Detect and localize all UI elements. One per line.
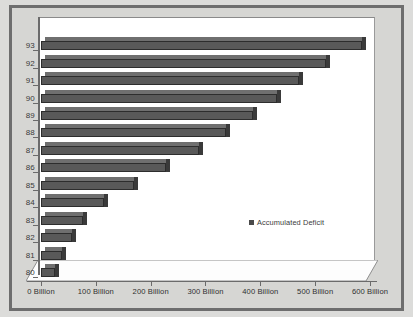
y-axis-tick	[33, 207, 38, 208]
y-axis-label-91: 91	[26, 76, 35, 85]
y-axis-label-89: 89	[26, 111, 35, 120]
chart-legend: Accumulated Deficit	[249, 218, 324, 227]
y-axis-label-83: 83	[26, 216, 35, 225]
x-axis-label-300: 300 Billion	[187, 287, 223, 296]
y-axis-tick	[33, 277, 38, 278]
x-axis-label-200: 200 Billion	[133, 287, 169, 296]
y-axis-tick	[33, 68, 38, 69]
y-axis-tick	[33, 242, 38, 243]
plot-floor-3d	[26, 260, 378, 282]
y-axis-tick	[33, 155, 38, 156]
x-axis-tick	[370, 281, 371, 286]
chart-screenshot: 8081828384858687888990919293 Accumulated…	[0, 0, 413, 317]
y-axis-tick	[33, 172, 38, 173]
x-axis-tick	[260, 281, 261, 286]
x-axis-label-500: 500 Billion	[297, 287, 333, 296]
y-axis-label-84: 84	[26, 198, 35, 207]
y-axis-label-80: 80	[26, 268, 35, 277]
y-axis-label-85: 85	[26, 181, 35, 190]
y-axis-tick	[33, 190, 38, 191]
y-axis-label-82: 82	[26, 233, 35, 242]
y-axis-tick	[33, 50, 38, 51]
y-axis-label-93: 93	[26, 41, 35, 50]
y-axis-tick	[33, 260, 38, 261]
y-axis-tick	[33, 225, 38, 226]
x-axis-tick	[96, 281, 97, 286]
legend-label: Accumulated Deficit	[257, 218, 324, 227]
x-axis-tick	[205, 281, 206, 286]
x-axis-label-0: 0 Billion	[27, 287, 55, 296]
y-axis-label-88: 88	[26, 128, 35, 137]
y-axis-label-81: 81	[26, 251, 35, 260]
y-axis-label-87: 87	[26, 146, 35, 155]
y-axis-tick-labels: 8081828384858687888990919293	[14, 17, 38, 265]
x-axis-label-400: 400 Billion	[242, 287, 278, 296]
x-axis-tick	[41, 281, 42, 286]
x-axis-label-100: 100 Billion	[78, 287, 114, 296]
y-axis-line	[38, 17, 40, 275]
y-axis-label-86: 86	[26, 163, 35, 172]
x-axis-line	[27, 281, 377, 282]
y-axis-tick	[33, 103, 38, 104]
x-axis-tick	[151, 281, 152, 286]
floor-polygon	[26, 260, 378, 282]
y-axis-tick	[33, 137, 38, 138]
y-axis-tick	[33, 120, 38, 121]
y-axis-tick	[33, 85, 38, 86]
x-axis-label-600: 600 Billion	[352, 287, 388, 296]
y-axis-label-90: 90	[26, 94, 35, 103]
x-axis-tick	[315, 281, 316, 286]
plot-back-wall	[39, 17, 375, 265]
y-axis-label-92: 92	[26, 59, 35, 68]
legend-swatch-icon	[249, 220, 254, 225]
